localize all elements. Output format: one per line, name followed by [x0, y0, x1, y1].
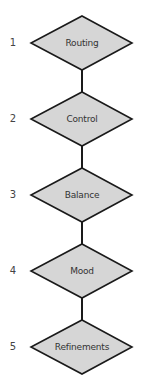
step-number-1: 1: [8, 37, 18, 49]
node-label-control: Control: [32, 113, 132, 125]
step-number-5: 5: [8, 341, 18, 353]
node-label-mood: Mood: [32, 265, 132, 277]
node-label-balance: Balance: [32, 189, 132, 201]
node-label-routing: Routing: [32, 37, 132, 49]
step-number-2: 2: [8, 113, 18, 125]
flowchart-diagram: 1 2 3 4 5 Routing Control Balance Mood R…: [0, 0, 151, 388]
node-label-refinements: Refinements: [32, 341, 132, 353]
step-number-3: 3: [8, 189, 18, 201]
step-number-4: 4: [8, 265, 18, 277]
